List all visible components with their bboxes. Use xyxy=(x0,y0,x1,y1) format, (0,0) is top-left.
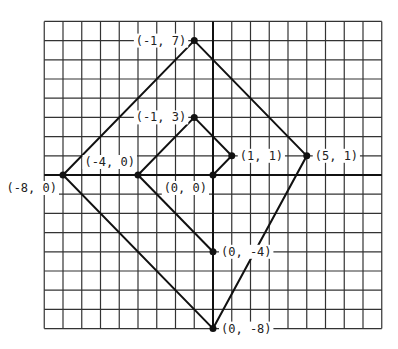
point-marker xyxy=(191,37,198,44)
inner-quadrilateral xyxy=(138,117,232,175)
point-marker xyxy=(228,152,235,159)
point-label-p1: (-1, 7) xyxy=(136,34,187,48)
point-label-p7: (0, 0) xyxy=(164,181,207,195)
point-label-p5: (-4, 0) xyxy=(84,155,135,169)
point-label-p8: (0, -4) xyxy=(221,245,272,259)
point-marker xyxy=(135,172,142,179)
point-label-p2: (-1, 3) xyxy=(136,110,187,124)
point-label-p6: (-8, 0) xyxy=(6,181,57,195)
coordinate-grid-diagram: (-1, 7)(-1, 3)(1, 1)(5, 1)(-4, 0)(-8, 0)… xyxy=(0,0,398,349)
point-label-p9: (0, -8) xyxy=(221,322,272,336)
point-marker xyxy=(210,172,217,179)
point-marker xyxy=(191,114,198,121)
point-marker xyxy=(60,172,67,179)
point-marker xyxy=(210,248,217,255)
point-marker xyxy=(303,152,310,159)
point-marker xyxy=(210,325,217,332)
point-label-p3: (1, 1) xyxy=(240,149,283,163)
point-label-p4: (5, 1) xyxy=(315,149,358,163)
